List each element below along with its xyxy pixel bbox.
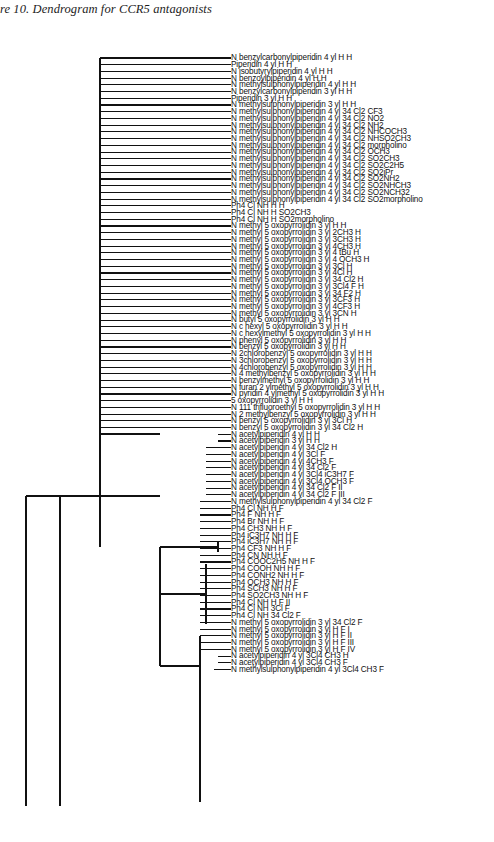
- dendrogram-figure: N benzylcarbonylpiperidin 4 yl H HPiperi…: [0, 26, 494, 826]
- tree-link-group: [26, 58, 231, 806]
- leaf-label-list: N benzylcarbonylpiperidin 4 yl H HPiperi…: [231, 26, 494, 806]
- leaf-label: N methylsulphonylpiperidin 4 yl 3Cl4 CH3…: [231, 664, 384, 675]
- dendrogram-tree: [0, 26, 240, 806]
- figure-caption: re 10. Dendrogram for CCR5 antagonists: [0, 2, 494, 20]
